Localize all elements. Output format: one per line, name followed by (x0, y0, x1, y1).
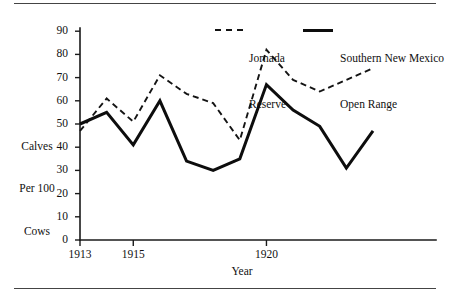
legend-entry-southern-new-mexico-open-range: Southern New Mexico Open Range (340, 21, 444, 142)
legend-solid-swatch (303, 29, 333, 32)
series-line-southern-new-mexico-open-range (80, 85, 373, 171)
legend-dashed-swatch (215, 29, 243, 31)
legend-entry-jornada-reserve: Jornada Reserve (249, 21, 286, 142)
legend-label-line-2: Open Range (340, 97, 444, 112)
y-axis-tick-label: 80 (38, 47, 68, 61)
x-axis-tick-label: 1920 (244, 248, 288, 262)
legend-label-line-1: Southern New Mexico (340, 51, 444, 66)
x-axis-tick-label: 1915 (111, 248, 155, 262)
y-axis-tick-label: 90 (38, 24, 68, 38)
x-axis-title: Year (212, 265, 272, 279)
legend-label-line-1: Jornada (249, 51, 286, 66)
y-axis-tick-label: 60 (38, 94, 68, 108)
y-axis-title-line-3: Cows (8, 224, 66, 239)
data-series-group (80, 50, 373, 171)
y-axis-tick-label: 70 (38, 71, 68, 85)
x-axis-ticks (80, 240, 266, 246)
y-axis-title-line-2: Per 100 (8, 181, 66, 196)
figure-container: 0102030405060708090 191319151920 Calves … (0, 0, 450, 304)
y-axis-title: Calves Per 100 Cows (8, 112, 66, 266)
series-line-jornada-reserve (80, 50, 373, 140)
legend-label-line-2: Reserve (249, 97, 286, 112)
y-axis-title-line-1: Calves (8, 139, 66, 154)
